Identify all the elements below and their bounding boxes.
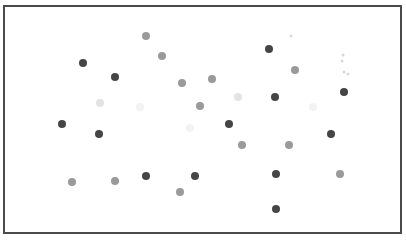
dot-light[interactable] <box>234 93 242 101</box>
noise-speck <box>347 73 350 76</box>
dot-mid[interactable] <box>196 102 204 110</box>
dot-mid[interactable] <box>238 141 246 149</box>
dot-dark[interactable] <box>272 205 280 213</box>
dot-dark[interactable] <box>58 120 66 128</box>
dot-mid[interactable] <box>142 32 150 40</box>
dot-faint[interactable] <box>186 124 194 132</box>
dot-light[interactable] <box>96 99 104 107</box>
noise-speck <box>290 35 293 38</box>
dot-faint[interactable] <box>136 103 144 111</box>
dot-dark[interactable] <box>79 59 87 67</box>
dot-dark[interactable] <box>272 170 280 178</box>
noise-speck <box>341 60 344 63</box>
dot-dark[interactable] <box>340 88 348 96</box>
dot-dark[interactable] <box>271 93 279 101</box>
dot-dark[interactable] <box>327 130 335 138</box>
dot-dark[interactable] <box>95 130 103 138</box>
noise-speck <box>342 54 345 57</box>
noise-speck <box>343 71 346 74</box>
dot-dark[interactable] <box>191 172 199 180</box>
dot-dark[interactable] <box>265 45 273 53</box>
dot-mid[interactable] <box>178 79 186 87</box>
dot-mid[interactable] <box>285 141 293 149</box>
dot-mid[interactable] <box>176 188 184 196</box>
dot-board[interactable] <box>3 5 402 234</box>
dot-mid[interactable] <box>208 75 216 83</box>
dot-mid[interactable] <box>336 170 344 178</box>
dot-dark[interactable] <box>142 172 150 180</box>
dot-mid[interactable] <box>291 66 299 74</box>
dot-mid[interactable] <box>111 177 119 185</box>
dot-dark[interactable] <box>225 120 233 128</box>
dot-faint[interactable] <box>309 103 317 111</box>
dot-mid[interactable] <box>68 178 76 186</box>
dot-dark[interactable] <box>111 73 119 81</box>
dot-mid[interactable] <box>158 52 166 60</box>
